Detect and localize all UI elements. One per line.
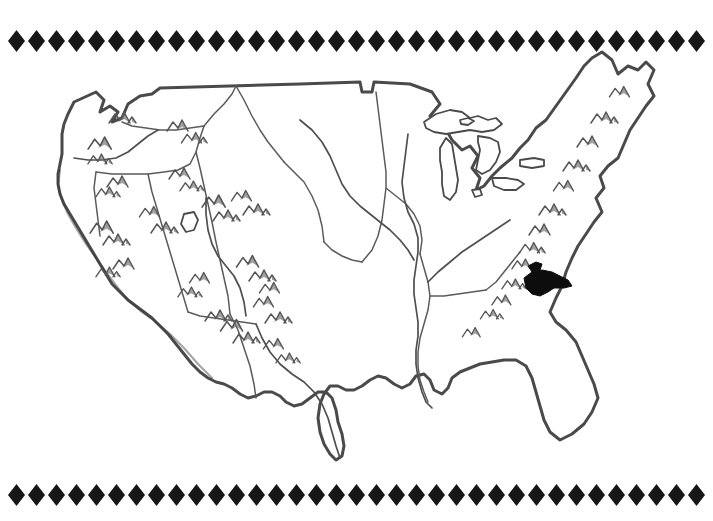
diamond-icon: [508, 484, 525, 506]
bottom-diamond-border: [0, 482, 713, 508]
diamond-icon: [188, 484, 205, 506]
small-lake-ne: [472, 189, 482, 197]
lake-erie: [492, 178, 524, 190]
diamond-icon: [548, 484, 565, 506]
mountain-icon: [88, 154, 112, 164]
lake-ontario: [520, 158, 544, 168]
diamond-icon: [328, 484, 345, 506]
internal-boundaries: [94, 86, 520, 402]
missouri-river: [300, 120, 414, 260]
columbia-river: [74, 130, 158, 160]
diamond-icon: [448, 484, 465, 506]
mountain-icon: [502, 279, 526, 289]
diamond-icon: [648, 484, 665, 506]
mountain-icon: [265, 312, 292, 323]
diamond-icon: [608, 484, 625, 506]
mountain-icon: [181, 133, 207, 143]
diamond-icon: [568, 484, 585, 506]
lake-huron: [476, 136, 500, 174]
diamond-icon: [388, 484, 405, 506]
mountain-icon: [529, 224, 550, 235]
diamond-icon: [248, 484, 265, 506]
us-map-illustration: [0, 0, 713, 521]
diamond-icon: [228, 484, 245, 506]
mountain-icon: [462, 328, 480, 337]
mountain-icon: [233, 332, 260, 343]
ohio-river: [428, 220, 510, 282]
diamond-icon: [168, 484, 185, 506]
diamond-icon: [48, 484, 65, 506]
mountain-icon: [253, 297, 273, 307]
diamond-icon: [348, 484, 365, 506]
mountain-icon: [113, 258, 134, 269]
diamond-icon: [428, 484, 445, 506]
diamond-icon: [408, 484, 425, 506]
mountain-icon: [243, 204, 270, 215]
diamond-icon: [88, 484, 105, 506]
mountain-icon: [539, 204, 566, 215]
diamond-icon: [688, 484, 705, 506]
pacific-coast-shading: [58, 170, 212, 378]
mountain-icon: [90, 221, 113, 233]
mountain-icon: [96, 187, 120, 197]
mountain-icon: [180, 181, 204, 191]
mountain-icon: [189, 273, 209, 283]
diamond-icon: [28, 484, 45, 506]
diamond-icon: [368, 484, 385, 506]
diamond-icon: [668, 484, 685, 506]
diamond-icon: [488, 484, 505, 506]
page-canvas: [0, 0, 713, 521]
mountain-icon: [609, 87, 629, 97]
mountain-icon: [591, 112, 618, 123]
mountain-icon: [563, 160, 590, 171]
mountain-icon: [259, 283, 279, 293]
diamond-icon: [108, 484, 125, 506]
great-salt-lake: [181, 212, 198, 232]
mountain-icon: [553, 181, 573, 191]
mountain-icon: [249, 270, 276, 281]
mountain-icon: [231, 191, 251, 201]
lake-michigan: [440, 138, 458, 200]
mountain-icon: [577, 136, 598, 147]
mountain-icon: [512, 259, 531, 269]
diamond-icon: [308, 484, 325, 506]
diamond-icon: [68, 484, 85, 506]
diamond-icon: [468, 484, 485, 506]
diamond-icon: [148, 484, 165, 506]
national-outline: [58, 52, 654, 460]
mountain-icon: [213, 210, 240, 221]
diamond-icon: [208, 484, 225, 506]
diamond-icon: [628, 484, 645, 506]
highlighted-region: [524, 262, 572, 296]
mountain-icon: [237, 256, 259, 268]
diamond-row-bottom: [8, 484, 705, 506]
mountain-symbol-group: [88, 87, 630, 363]
mountain-icon: [492, 295, 511, 305]
mountain-icon: [107, 176, 128, 187]
diamond-icon: [8, 484, 25, 506]
great-lakes-group: [181, 110, 544, 232]
diamond-icon: [128, 484, 145, 506]
mountain-icon: [103, 234, 130, 245]
diamond-icon: [288, 484, 305, 506]
mountain-icon: [88, 137, 111, 149]
diamond-icon: [588, 484, 605, 506]
mississippi-river: [402, 134, 432, 408]
diamond-icon: [528, 484, 545, 506]
mountain-icon: [519, 243, 545, 253]
mountain-icon: [276, 353, 300, 363]
mountain-icon: [480, 310, 503, 319]
diamond-icon: [268, 484, 285, 506]
